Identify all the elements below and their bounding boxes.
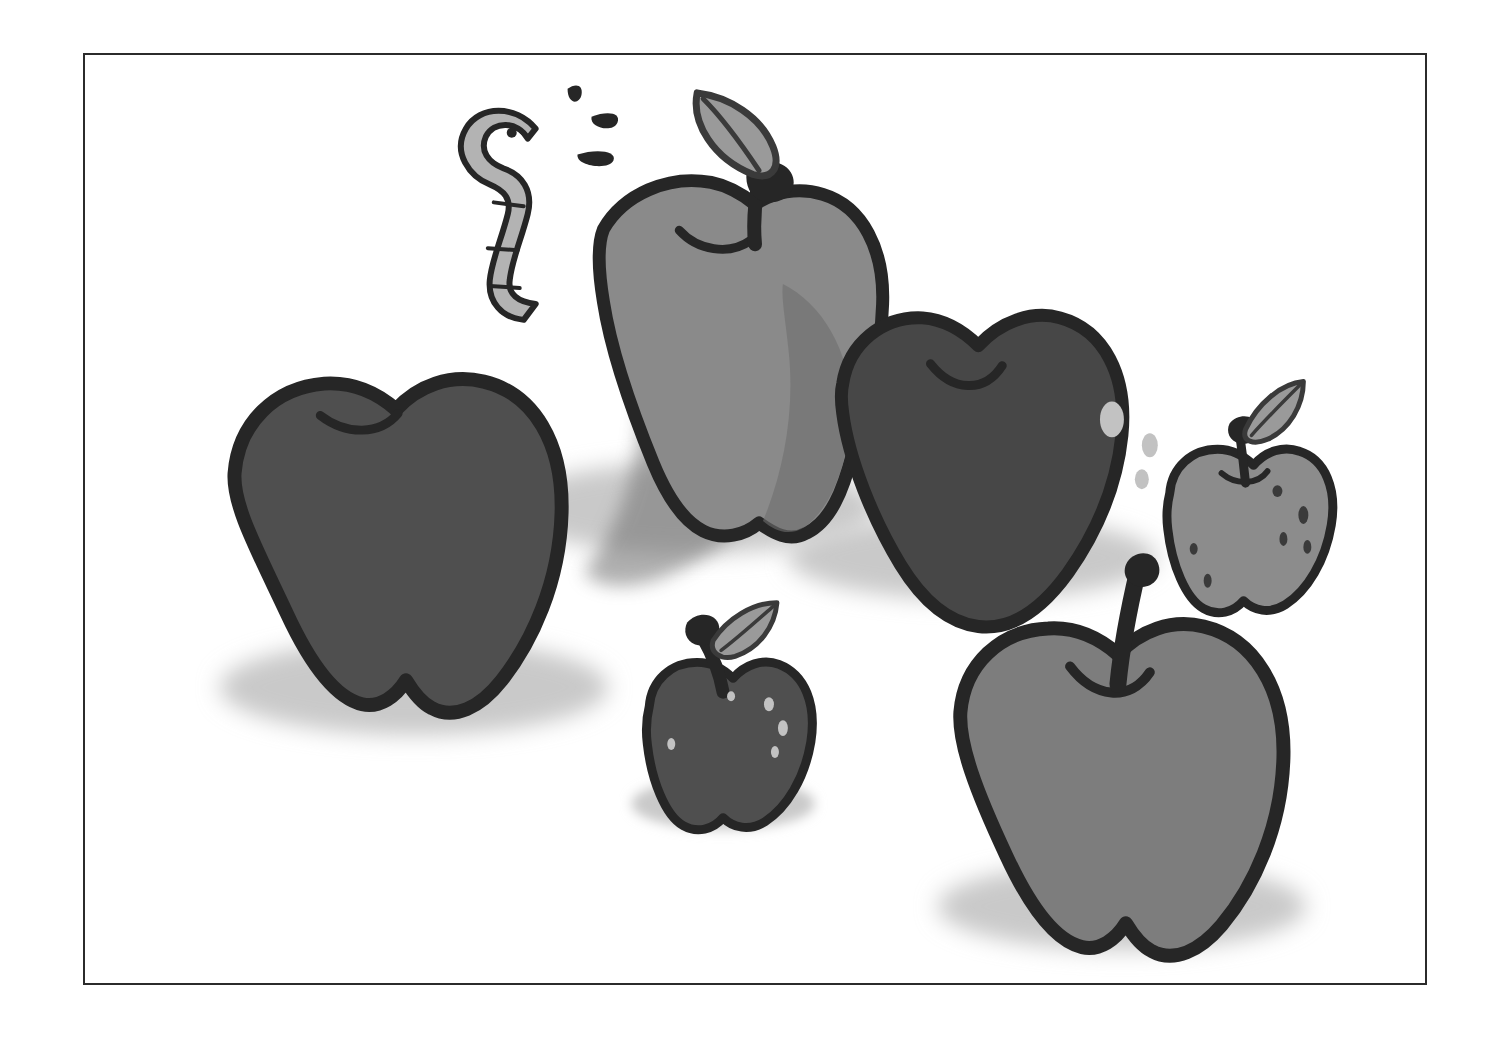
worm-segment-2 [488,248,518,250]
apple-small-right-body [1167,449,1333,613]
artwork-frame [83,53,1427,985]
apples-illustration [85,55,1425,983]
worm-eye-icon [507,128,517,138]
illustration-page: Apples with Worm [0,0,1503,1043]
worm-segment-3 [490,286,520,288]
